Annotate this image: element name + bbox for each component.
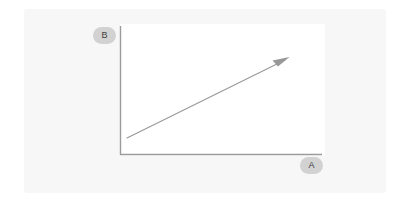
trend-arrow (127, 57, 290, 138)
axes-and-arrow-graphic (0, 0, 409, 207)
x-axis-label: A (300, 157, 323, 174)
y-axis-label: B (93, 27, 116, 44)
figure-canvas: B A (0, 0, 409, 207)
trend-arrow-shaft (127, 60, 285, 138)
